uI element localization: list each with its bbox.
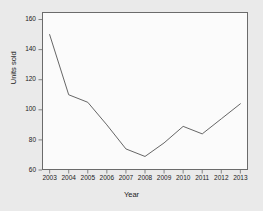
y-tick-label: 120 [25, 76, 36, 83]
y-axis-title: Units sold [10, 28, 18, 108]
x-tick-label: 2007 [119, 175, 133, 182]
x-tick-label: 2004 [61, 175, 75, 182]
x-tick-label: 2011 [195, 175, 209, 182]
x-tick-label: 2003 [42, 175, 56, 182]
plot-panel [42, 12, 248, 170]
x-tick-label: 2010 [176, 175, 190, 182]
x-axis-tick-marks [50, 170, 241, 174]
chart-figure: 6080100120140160 20032004200520062007200… [0, 0, 263, 211]
x-tick-label: 2006 [100, 175, 114, 182]
x-tick-label: 2008 [138, 175, 152, 182]
x-tick-label: 2009 [157, 175, 171, 182]
y-tick-label: 60 [29, 167, 36, 174]
x-tick-label: 2012 [214, 175, 228, 182]
x-tick-label: 2013 [233, 175, 247, 182]
y-tick-label: 140 [25, 46, 36, 53]
y-tick-label: 160 [25, 16, 36, 23]
x-axis-title: Year [0, 191, 263, 199]
y-tick-label: 80 [29, 137, 36, 144]
y-tick-label: 100 [25, 106, 36, 113]
x-axis-tick-labels: 2003200420052006200720082009201020112012… [0, 175, 263, 187]
x-tick-label: 2005 [81, 175, 95, 182]
